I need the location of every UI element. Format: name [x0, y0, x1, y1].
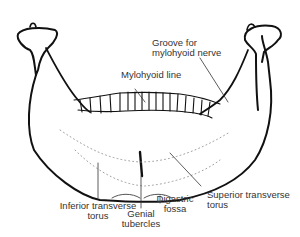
left-condyle	[18, 28, 57, 75]
label-line: torus	[207, 200, 290, 210]
label-digastric-fossa: Digastric fossa	[150, 194, 200, 214]
label-groove-for-mylohyoid-nerve: Groove for mylohyoid nerve	[152, 38, 221, 58]
mandible-outline	[29, 36, 271, 202]
mandible-diagram: Groove for mylohyoid nerve Mylohyoid lin…	[0, 0, 300, 237]
leader-groove	[200, 58, 228, 102]
teeth-row	[74, 92, 220, 118]
label-superior-transverse-torus: Superior transverse torus	[207, 190, 290, 210]
label-line: fossa	[150, 204, 200, 214]
genial-crest	[140, 152, 142, 176]
leader-superior	[170, 153, 201, 186]
leader-mylohyoid	[135, 89, 145, 102]
label-line: mylohyoid nerve	[152, 48, 221, 58]
label-line: tubercles	[118, 219, 164, 229]
label-mylohyoid-line: Mylohyoid line	[121, 70, 181, 80]
